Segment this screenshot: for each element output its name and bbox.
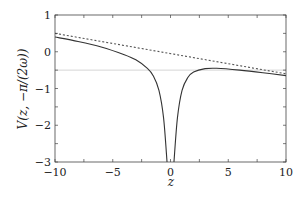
y-tick-label: −2 [35, 119, 51, 132]
tick-labels: −10−5051010−1−2−3 [35, 9, 293, 179]
series-solid-right [174, 68, 286, 162]
series-solid [55, 37, 167, 162]
y-tick-label: 1 [44, 9, 51, 22]
y-tick-label: 0 [44, 46, 51, 59]
plot-frame [55, 15, 286, 162]
y-axis-label: V(z, −π/(2ω)) [16, 48, 30, 129]
y-tick-label: −3 [35, 156, 51, 169]
x-tick-label: −5 [105, 166, 121, 179]
x-tick-label: 5 [225, 166, 232, 179]
series-dashed [55, 33, 286, 73]
chart: −10−5051010−1−2−3 z V(z, −π/(2ω)) [0, 0, 305, 197]
axes [55, 15, 286, 162]
plot-area [55, 33, 286, 162]
y-tick-label: −1 [35, 83, 51, 96]
x-axis-label: z [167, 175, 175, 189]
x-tick-label: 10 [279, 166, 293, 179]
